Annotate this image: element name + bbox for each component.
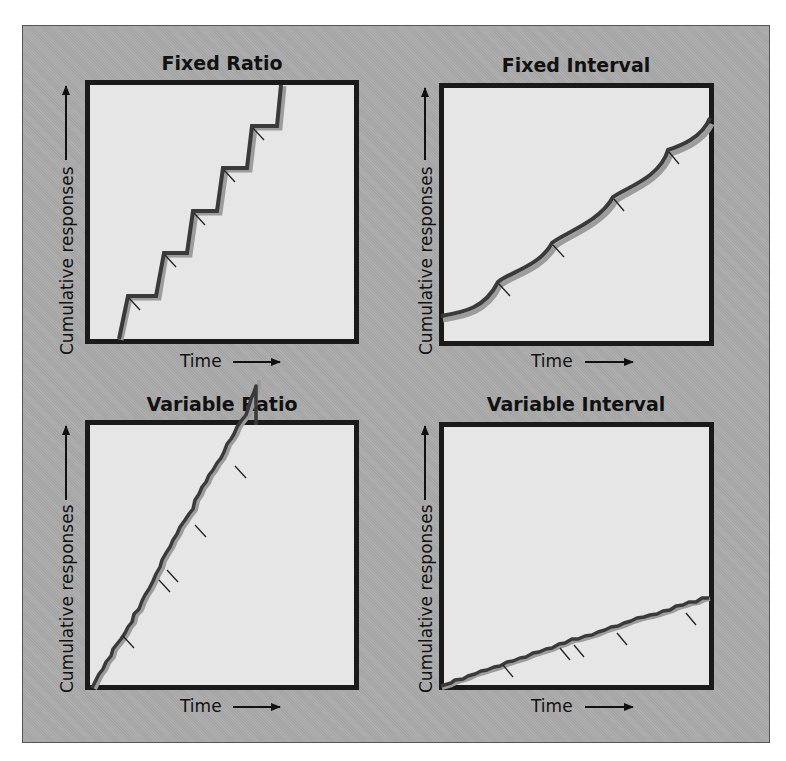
y-axis-label: Cumulative responses: [416, 166, 436, 355]
schedules-of-reinforcement-figure: Fixed Ratio Cumulative responses Time Fi…: [0, 0, 786, 761]
panel-fixed-ratio: Fixed Ratio Cumulative responses Time: [57, 52, 357, 371]
panel-title: Fixed Interval: [502, 54, 651, 76]
y-axis-label-group: Cumulative responses: [416, 426, 436, 693]
x-axis-label-group: Time: [530, 696, 633, 716]
panel-variable-interval: Variable Interval Cumulative responses T…: [416, 393, 712, 716]
y-axis-label-group: Cumulative responses: [416, 88, 436, 355]
x-axis-label-group: Time: [179, 351, 280, 371]
panel-title: Variable Ratio: [147, 393, 298, 415]
y-axis-label-group: Cumulative responses: [57, 86, 77, 355]
y-axis-label: Cumulative responses: [57, 504, 77, 693]
y-axis-label-group: Cumulative responses: [57, 426, 77, 693]
y-axis-label: Cumulative responses: [57, 166, 77, 355]
x-axis-label-group: Time: [530, 351, 633, 371]
x-axis-label: Time: [530, 351, 573, 371]
panel-title: Fixed Ratio: [162, 52, 283, 74]
panel-variable-ratio: Variable Ratio Cumulative responses Time: [57, 380, 357, 716]
x-axis-label: Time: [179, 696, 222, 716]
y-axis-label: Cumulative responses: [416, 504, 436, 693]
panel-title: Variable Interval: [487, 393, 665, 415]
x-axis-label: Time: [179, 351, 222, 371]
x-axis-label-group: Time: [179, 696, 280, 716]
panel-fixed-interval: Fixed Interval Cumulative responses Time: [416, 54, 712, 371]
x-axis-label: Time: [530, 696, 573, 716]
